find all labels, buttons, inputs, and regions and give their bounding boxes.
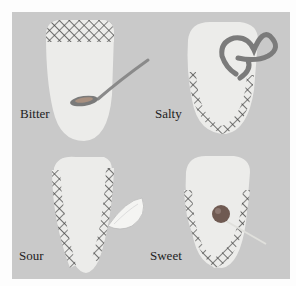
label-sour: Sour <box>19 248 44 264</box>
sour-tongue <box>52 157 114 273</box>
lemon-wedge-icon <box>108 198 144 229</box>
label-sweet: Sweet <box>150 248 182 264</box>
tongue-diagram <box>0 0 296 286</box>
label-salty: Salty <box>155 106 182 122</box>
label-bitter: Bitter <box>20 106 50 122</box>
bitter-tongue <box>46 20 114 141</box>
